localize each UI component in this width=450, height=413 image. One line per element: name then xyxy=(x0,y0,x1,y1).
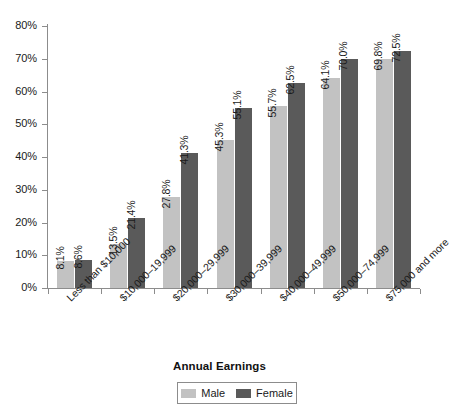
x-axis-tick xyxy=(207,289,208,294)
bar-value-label: 69.8% xyxy=(372,42,384,71)
bar-female: 62.5% xyxy=(288,83,305,288)
bar-group: 8.1%8.6% xyxy=(57,26,92,288)
x-axis-tick xyxy=(48,289,49,294)
y-axis-tick-label: 40% xyxy=(15,150,37,162)
bar-value-label: 72.5% xyxy=(390,33,402,62)
bar-value-label: 41.3% xyxy=(178,135,190,164)
bar-value-label: 8.1% xyxy=(54,247,66,270)
bar-value-label: 55.1% xyxy=(231,90,243,119)
bar-value-label: 62.5% xyxy=(284,66,296,95)
y-axis-tick-label: 50% xyxy=(15,117,37,129)
legend-item-female: Female xyxy=(236,387,293,399)
chart-legend: Male Female xyxy=(177,382,297,404)
bar-value-label: 45.3% xyxy=(213,122,225,151)
bar-male: 27.8% xyxy=(163,197,180,288)
y-axis-tick-label: 20% xyxy=(15,216,37,228)
legend-swatch-male xyxy=(181,389,196,398)
bar-female: 72.5% xyxy=(394,51,411,288)
bar-value-label: 21.4% xyxy=(125,201,137,230)
y-axis-tick-label: 0% xyxy=(21,281,37,293)
y-axis-tick-label: 10% xyxy=(15,248,37,260)
bar-female: 70.0% xyxy=(341,59,358,288)
x-axis-tick xyxy=(261,289,262,294)
legend-label-male: Male xyxy=(201,387,225,399)
legend-item-male: Male xyxy=(181,387,225,399)
bar-female: 55.1% xyxy=(235,108,252,288)
x-axis-title: Annual Earnings xyxy=(0,360,439,372)
x-axis-tick xyxy=(420,289,421,294)
bar-value-label: 70.0% xyxy=(337,41,349,70)
bar-value-label: 64.1% xyxy=(319,61,331,90)
y-axis-tick-label: 30% xyxy=(15,183,37,195)
x-axis-tick xyxy=(154,289,155,294)
legend-swatch-female xyxy=(236,389,251,398)
bar-value-label: 8.6% xyxy=(72,245,84,268)
y-axis-tick-label: 60% xyxy=(15,85,37,97)
plot-area: 8.1%8.6%13.5%21.4%27.8%41.3%45.3%55.1%55… xyxy=(48,26,420,288)
bar-value-label: 27.8% xyxy=(160,180,172,209)
x-axis-tick xyxy=(314,289,315,294)
legend-label-female: Female xyxy=(256,387,293,399)
bar-male: 45.3% xyxy=(217,140,234,288)
y-axis-tick-label: 80% xyxy=(15,19,37,31)
x-axis-tick xyxy=(101,289,102,294)
y-axis-tick-label: 70% xyxy=(15,52,37,64)
x-axis-tick xyxy=(367,289,368,294)
bar-value-label: 55.7% xyxy=(266,88,278,117)
